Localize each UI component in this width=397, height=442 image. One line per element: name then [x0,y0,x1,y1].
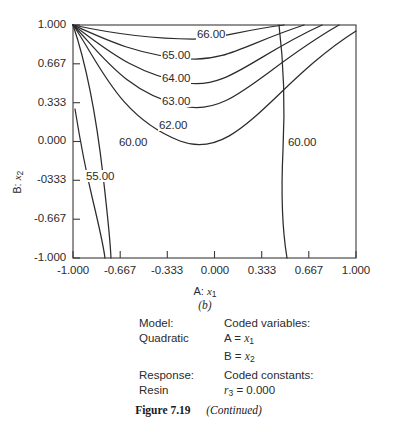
x-tick-label: 1.000 [326,264,386,276]
y-axis-title: B: x2 [11,152,25,212]
contour-label-60-left: 60.00 [118,136,148,148]
y-tick-label: 0.000 [8,134,66,146]
coded-variables-heading: Coded variables: [224,316,384,331]
figure-caption: Figure 7.19 (Continued) [0,404,397,416]
coded-constants-heading: Coded constants: [224,368,384,383]
y-tick-label: -1.000 [8,251,66,263]
contour-label-64: 64.00 [161,72,191,84]
y-tick-label: 1.000 [8,18,66,30]
figure-info-block: Model: Quadratic Coded variables: A = x1… [0,316,397,402]
coded-variables-group: Coded variables: A = x1 B = x2 [224,316,384,368]
figure-continued-label: (Continued) [206,404,262,416]
response-heading: Response: [139,368,234,383]
contour-label-63: 63.00 [161,95,191,107]
contour-label-66: 66.00 [196,28,226,40]
y-tick-label: 0.333 [8,96,66,108]
contour-label-55: 55.00 [85,170,115,182]
y-tick-label: -0.667 [8,212,66,224]
x-axis-title: A: x1 [175,285,235,299]
contour-label-65: 65.00 [161,49,191,61]
panel-letter: (b) [175,299,235,311]
contour-label-62: 62.00 [158,119,188,131]
coded-variable-a: A = x1 [224,331,384,349]
figure-page: 1.000 0.667 0.333 0.000 -0333 -0.667 -1.… [0,0,397,442]
figure-number: Figure 7.19 [135,404,190,416]
y-axis-ticks [73,25,80,258]
response-value: Resin [139,383,234,398]
contour-line-66 [73,25,284,39]
x-axis-ticks [73,251,356,258]
model-value: Quadratic [139,331,234,346]
contour-label-60-right: 60.00 [287,136,317,148]
coded-variable-b: B = x2 [224,349,384,367]
contour-plot: 1.000 0.667 0.333 0.000 -0333 -0.667 -1.… [0,0,397,300]
coded-constants-group: Coded constants: r3 = 0.000 [224,368,384,401]
y-tick-label: 0.667 [8,57,66,69]
model-group: Model: Quadratic [139,316,234,346]
response-group: Response: Resin [139,368,234,398]
model-heading: Model: [139,316,234,331]
coded-constant-value: r3 = 0.000 [224,383,384,401]
contour-line-55 [75,109,105,258]
